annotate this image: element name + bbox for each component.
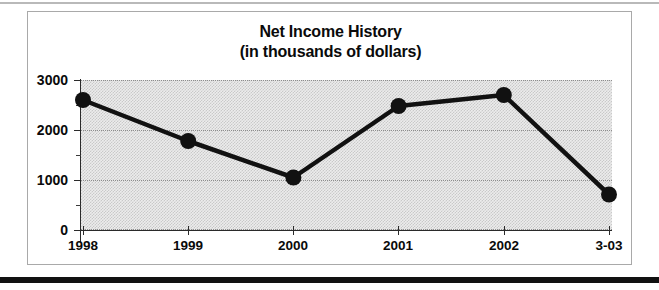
page-top-rule [0, 2, 659, 4]
data-point-3-03 [601, 187, 617, 203]
data-point-2001 [391, 98, 407, 114]
series-markers [75, 87, 617, 203]
data-point-1999 [180, 133, 196, 149]
data-point-2000 [285, 170, 301, 186]
data-point-2002 [496, 87, 512, 103]
chart-figure-frame: Net Income History (in thousands of doll… [27, 11, 632, 265]
net-income-series [28, 12, 633, 266]
page-bottom-rule [0, 277, 659, 283]
series-line [83, 95, 609, 195]
plot-wrap: 3000 2000 1000 0 1998 1999 2000 2001 200… [28, 12, 633, 266]
data-point-1998 [75, 92, 91, 108]
